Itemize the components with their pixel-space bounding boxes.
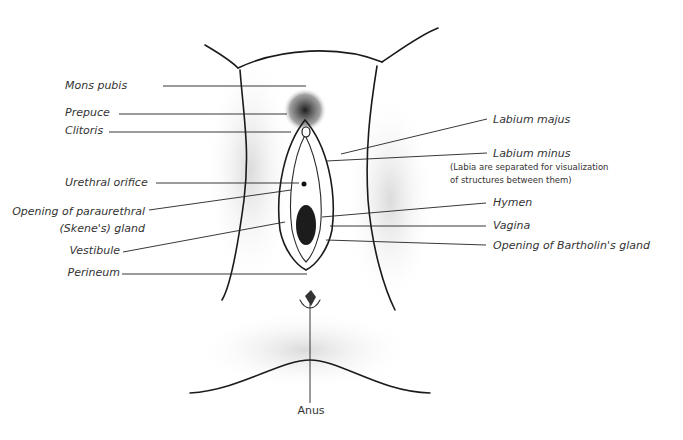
labia-note-line1: (Labia are separated for visualization [450, 162, 608, 172]
label-perineum: Perineum [68, 266, 120, 279]
label-prepuce: Prepuce [65, 106, 110, 119]
label-urethral-orifice: Urethral orifice [65, 176, 148, 189]
label-clitoris: Clitoris [65, 124, 103, 137]
label-vagina: Vagina [493, 219, 531, 232]
label-bartholin-gland: Opening of Bartholin's gland [493, 239, 651, 252]
label-mons-pubis: Mons pubis [65, 79, 127, 92]
anatomy-diagram: Mons pubis Prepuce Clitoris Urethral ori… [0, 0, 683, 440]
label-hymen: Hymen [493, 196, 532, 209]
label-anus: Anus [297, 404, 324, 417]
label-vestibule: Vestibule [69, 244, 120, 257]
label-paraurethral-gland-line2: (Skene's) gland [60, 222, 146, 235]
labia-note-line2: of structures between them) [450, 175, 572, 185]
label-labium-majus: Labium majus [493, 113, 571, 126]
labels-right: Labium majus Labium minus (Labia are sep… [450, 113, 651, 252]
label-labium-minus: Labium minus [493, 147, 571, 160]
labels-left: Mons pubis Prepuce Clitoris Urethral ori… [12, 79, 148, 279]
label-paraurethral-gland: Opening of paraurethral [12, 205, 145, 218]
